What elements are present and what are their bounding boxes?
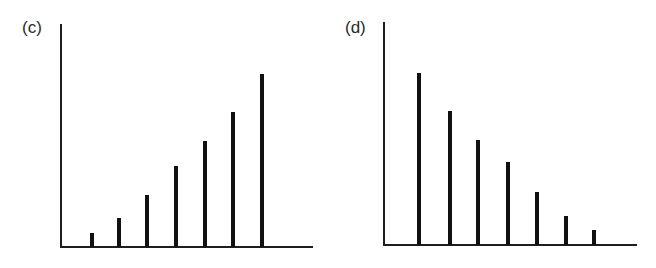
chart-panel-d: (d) — [0, 0, 656, 268]
bar — [535, 192, 539, 245]
panel-label-d: (d) — [345, 18, 366, 38]
y-axis-d — [383, 22, 385, 246]
bar — [506, 162, 510, 245]
x-axis-d — [383, 244, 637, 246]
bar — [476, 140, 480, 245]
bar — [564, 216, 568, 245]
bar — [448, 111, 452, 245]
bar — [592, 230, 596, 245]
bar — [417, 73, 421, 245]
